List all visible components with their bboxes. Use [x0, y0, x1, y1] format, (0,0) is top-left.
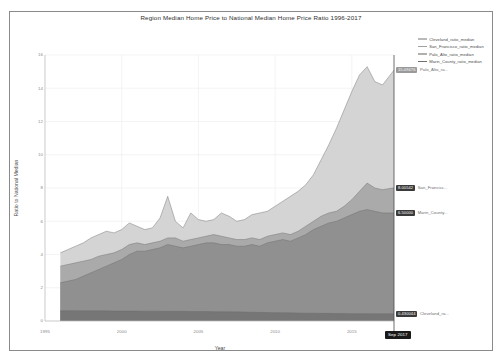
series-value-badge: 8.00542: [396, 185, 415, 191]
legend-item-label: San_Francisco_ratio_median: [429, 44, 484, 49]
chart-screenshot: Region Median Home Price to National Med…: [0, 0, 502, 362]
series-end-label: 8.00542San_Francisc...: [396, 185, 448, 191]
legend-swatch-icon: [418, 53, 427, 55]
date-badge: Sep 2017: [385, 331, 411, 339]
legend-item-label: Cleveland_ratio_median: [429, 37, 474, 42]
series-end-name: Marin_County...: [418, 210, 448, 215]
series-value-badge: 15.09476: [396, 67, 417, 73]
x-tick-label: 2015: [343, 329, 361, 334]
legend-item[interactable]: Cleveland_ratio_median: [418, 36, 498, 42]
legend-item[interactable]: Palo_Alto_ratio_median: [418, 51, 498, 57]
series-end-label: 15.09476Palo_Alto_ra...: [396, 67, 448, 73]
y-tick-label: 10: [34, 152, 43, 157]
y-tick-label: 12: [34, 119, 43, 124]
y-tick-label: 8: [34, 185, 43, 190]
series-end-name: Cleveland_ra...: [420, 311, 449, 316]
y-tick-label: 2: [34, 285, 43, 290]
legend-item[interactable]: Marin_County_ratio_median: [418, 58, 498, 64]
series-end-label: 0.430044Cleveland_ra...: [396, 311, 449, 317]
legend-swatch-icon: [418, 38, 427, 40]
y-tick-label: 0: [34, 318, 43, 323]
x-axis-title: Year: [180, 345, 260, 351]
series-end-label: 6.50000Marin_County...: [396, 210, 448, 216]
x-tick-label: 1995: [36, 329, 54, 334]
y-tick-label: 6: [34, 219, 43, 224]
y-axis-title: Ratio to National Median: [13, 138, 19, 238]
legend-swatch-icon: [418, 46, 427, 48]
series-value-badge: 6.50000: [396, 210, 415, 216]
series-end-name: Palo_Alto_ra...: [420, 67, 448, 72]
series-value-badge: 0.430044: [396, 311, 417, 317]
legend-swatch-icon: [418, 61, 427, 63]
x-tick-label: 2005: [189, 329, 207, 334]
legend-item[interactable]: San_Francisco_ratio_median: [418, 43, 498, 49]
y-tick-label: 14: [34, 86, 43, 91]
y-tick-label: 16: [34, 52, 43, 57]
x-tick-label: 2000: [113, 329, 131, 334]
x-tick-label: 2010: [266, 329, 284, 334]
chart-legend: Cleveland_ratio_medianSan_Francisco_rati…: [418, 36, 498, 66]
legend-item-label: Palo_Alto_ratio_median: [429, 52, 474, 57]
legend-item-label: Marin_County_ratio_median: [429, 59, 482, 64]
y-tick-label: 4: [34, 252, 43, 257]
series-end-name: San_Francisc...: [418, 185, 448, 190]
